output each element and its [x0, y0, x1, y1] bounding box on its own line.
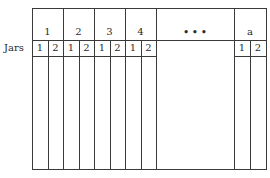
group-label-4: 4 — [125, 26, 156, 38]
sub-label: 1 — [125, 42, 141, 54]
ellipsis-label: • • • — [156, 26, 234, 38]
group-label-1: 1 — [32, 26, 63, 38]
grid-line — [266, 8, 267, 170]
sub-label: 2 — [141, 42, 156, 54]
group-label-3: 3 — [94, 26, 125, 38]
group-header-divider — [32, 40, 267, 41]
top-border — [32, 8, 267, 9]
sub-grid-line — [110, 40, 111, 170]
group-label-a: a — [234, 26, 266, 38]
sub-grid-line — [250, 40, 251, 170]
row-label-jars: Jars — [4, 42, 24, 54]
sub-grid-line — [48, 40, 49, 170]
sub-label: 2 — [79, 42, 94, 54]
sub-label: 1 — [63, 42, 79, 54]
sub-label: 1 — [32, 42, 48, 54]
sub-label: 2 — [110, 42, 125, 54]
sub-grid-line — [79, 40, 80, 170]
sub-label: 2 — [250, 42, 266, 54]
bottom-border — [32, 169, 267, 170]
sub-label: 1 — [234, 42, 250, 54]
sub-grid-line — [141, 40, 142, 170]
group-label-2: 2 — [63, 26, 94, 38]
sub-label: 2 — [48, 42, 63, 54]
sub-label: 1 — [94, 42, 110, 54]
